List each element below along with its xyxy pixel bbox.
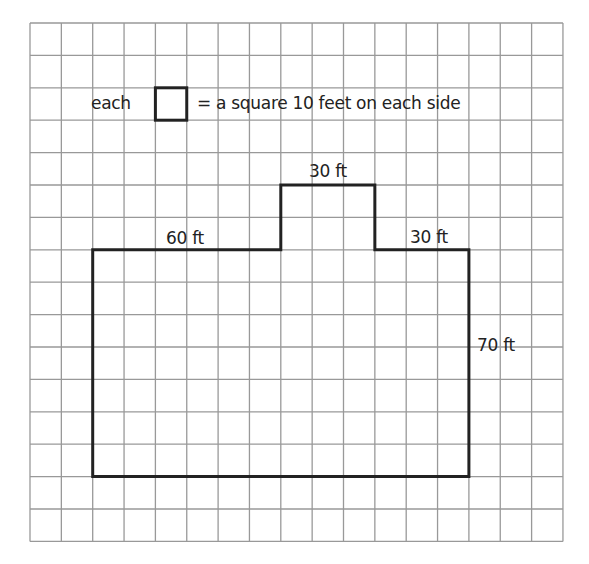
- label-notch-top-30ft: 30 ft: [309, 163, 347, 180]
- label-top-left-60ft: 60 ft: [166, 230, 204, 247]
- legend-text: = a square 10 feet on each side: [197, 95, 460, 112]
- label-right-70ft: 70 ft: [477, 337, 515, 354]
- legend-square-icon: [155, 88, 186, 120]
- grid-paper: [0, 0, 589, 564]
- label-top-right-30ft: 30 ft: [410, 229, 448, 246]
- legend-prefix: each: [91, 95, 131, 112]
